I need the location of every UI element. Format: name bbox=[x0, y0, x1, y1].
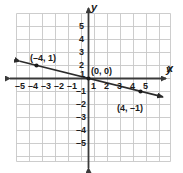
y-tick-3: 3 bbox=[79, 48, 84, 57]
y-tick-minus-3-sign: – bbox=[76, 113, 81, 122]
y-tick-minus-4: 4 bbox=[81, 126, 86, 135]
y-tick-minus-1-sign: – bbox=[76, 87, 81, 96]
x-tick-minus-2: 2 bbox=[59, 82, 64, 91]
x-tick-minus-5-sign: – bbox=[15, 82, 20, 91]
x-tick-minus-4: 4 bbox=[33, 82, 38, 91]
y-tick-minus-5-sign: – bbox=[76, 139, 81, 148]
x-tick-4: 4 bbox=[130, 82, 135, 91]
data-point-right bbox=[138, 89, 142, 93]
y-tick-minus-2: 2 bbox=[81, 100, 86, 109]
coordinate-plane-figure: y y x 5 4 3 2 1 – – – – – 1 2 3 4 5 5 4 … bbox=[0, 0, 183, 173]
x-tick-minus-2-sign: – bbox=[54, 82, 59, 91]
data-point-origin bbox=[86, 76, 90, 80]
x-axis-name: x bbox=[167, 63, 173, 74]
x-tick-minus-3: 3 bbox=[46, 82, 51, 91]
annotation-point-right: (4, –1) bbox=[117, 104, 143, 113]
data-point-left bbox=[34, 63, 38, 67]
y-tick-minus-5: 5 bbox=[81, 139, 86, 148]
y-tick-minus-4-sign: – bbox=[76, 126, 81, 135]
x-tick-minus-4-sign: – bbox=[28, 82, 33, 91]
x-tick-1: 1 bbox=[91, 82, 96, 91]
y-tick-5: 5 bbox=[79, 22, 84, 31]
x-tick-5: 5 bbox=[143, 82, 148, 91]
x-tick-minus-1-sign: – bbox=[67, 82, 72, 91]
annotation-point-left: (–4, 1) bbox=[30, 54, 56, 63]
x-tick-2: 2 bbox=[104, 82, 109, 91]
y-tick-4: 4 bbox=[79, 35, 84, 44]
y-tick-1: 1 bbox=[80, 70, 85, 79]
y-tick-minus-1: 1 bbox=[81, 87, 86, 96]
x-tick-minus-5: 5 bbox=[20, 82, 25, 91]
x-tick-minus-3-sign: – bbox=[41, 82, 46, 91]
y-axis-name: y bbox=[91, 2, 97, 13]
y-tick-minus-2-sign: – bbox=[76, 100, 81, 109]
x-tick-3: 3 bbox=[117, 82, 122, 91]
annotation-point-origin: (0, 0) bbox=[91, 67, 112, 76]
y-tick-minus-3: 3 bbox=[81, 113, 86, 122]
